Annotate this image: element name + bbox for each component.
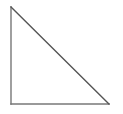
right-triangle-drawing bbox=[0, 0, 123, 114]
figure-canvas bbox=[0, 0, 123, 114]
